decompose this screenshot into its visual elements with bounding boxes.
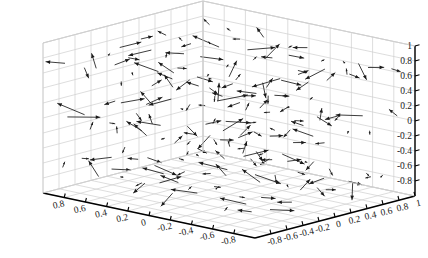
- z-tick-label-5: 0: [407, 116, 412, 126]
- figure-background: [0, 0, 428, 258]
- z-tick-label-1: 0.8: [400, 56, 412, 66]
- z-tick-label-2: 0.6: [400, 71, 412, 81]
- z-tick-label-7: -0.4: [397, 146, 412, 156]
- plot-canvas: 10.80.60.40.20-0.2-0.4-0.6-0.80.80.60.40…: [0, 0, 428, 258]
- z-tick-label-9: -0.8: [397, 176, 412, 186]
- z-tick-label-6: -0.2: [397, 131, 412, 141]
- z-tick-label-3: 0.4: [400, 86, 412, 96]
- quiver3-figure: 10.80.60.40.20-0.2-0.4-0.6-0.80.80.60.40…: [0, 0, 428, 258]
- z-tick-label-0: 1: [407, 41, 412, 51]
- z-tick-label-4: 0.2: [400, 101, 412, 111]
- z-tick-label-8: -0.6: [397, 161, 412, 171]
